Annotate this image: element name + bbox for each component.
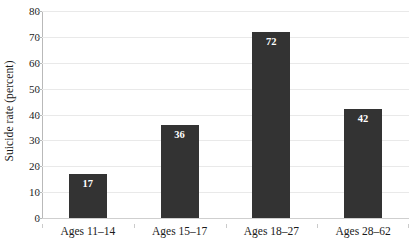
y-axis-tick-mark	[37, 192, 42, 193]
x-axis-tick-label: Ages 15–17	[134, 224, 226, 238]
bar-value-label: 42	[344, 113, 382, 124]
gridline	[42, 37, 409, 38]
y-axis-title-text: Suicide rate (percent)	[3, 60, 15, 161]
y-axis-tick-mark	[37, 63, 42, 64]
y-axis-tick-mark	[37, 166, 42, 167]
y-axis-tick-mark	[37, 37, 42, 38]
bar: 72	[252, 32, 290, 218]
bar-value-label: 72	[252, 36, 290, 47]
y-axis-tick-mark	[37, 115, 42, 116]
plot-area: 17367242	[42, 11, 409, 218]
gridline	[42, 11, 409, 12]
x-axis-tick-labels: Ages 11–14Ages 15–17Ages 18–27Ages 28–62	[42, 224, 409, 246]
y-axis-tick-mark	[37, 89, 42, 90]
x-axis-tick-label: Ages 28–62	[317, 224, 409, 238]
y-axis-tick-mark	[37, 140, 42, 141]
y-axis-tick-mark	[37, 218, 42, 219]
y-axis-title: Suicide rate (percent)	[0, 0, 18, 222]
x-axis-tick-label: Ages 11–14	[42, 224, 134, 238]
bar-chart: Suicide rate (percent) 01020304050607080…	[0, 0, 409, 249]
bar: 36	[161, 125, 199, 218]
axis-baseline	[42, 218, 409, 219]
y-axis-tick-mark	[37, 11, 42, 12]
bar: 42	[344, 109, 382, 218]
bar-value-label: 17	[69, 178, 107, 189]
gridline	[42, 89, 409, 90]
gridline	[42, 63, 409, 64]
bar-value-label: 36	[161, 129, 199, 140]
bar: 17	[69, 174, 107, 218]
x-axis-tick-label: Ages 18–27	[226, 224, 318, 238]
